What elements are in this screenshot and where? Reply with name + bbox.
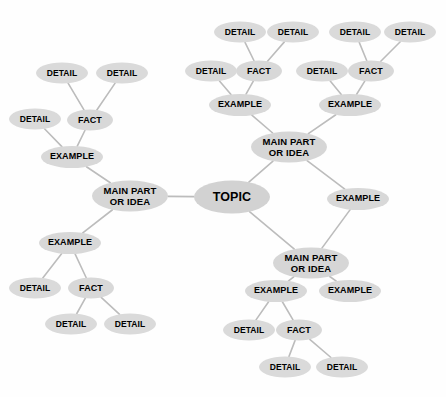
edge-ex-b1-to-fact-b1 bbox=[282, 302, 293, 320]
edge-fact-l2-to-det-l2c bbox=[101, 297, 119, 314]
node-ex-b2[interactable]: EXAMPLE bbox=[319, 280, 381, 302]
node-ex-l1[interactable]: EXAMPLE bbox=[41, 146, 103, 168]
edge-fact-l1-to-det-l1b bbox=[68, 83, 84, 110]
edge-main-upper-to-ex-u1 bbox=[252, 115, 273, 133]
node-main-lower[interactable]: MAIN PART OR IDEA bbox=[273, 248, 349, 279]
node-det-u1a[interactable]: DETAIL bbox=[185, 61, 237, 82]
node-fact-l2[interactable]: FACT bbox=[68, 278, 114, 299]
node-det-u2a[interactable]: DETAIL bbox=[296, 61, 348, 82]
edge-ex-u1-to-det-u1a bbox=[219, 81, 231, 95]
node-det-b1c[interactable]: DETAIL bbox=[316, 357, 368, 378]
edge-main-upper-to-ex-mid bbox=[307, 161, 345, 189]
edge-ex-l1-to-det-l1a bbox=[45, 129, 62, 147]
node-det-l1a[interactable]: DETAIL bbox=[9, 109, 61, 130]
node-ex-u1[interactable]: EXAMPLE bbox=[209, 94, 271, 116]
node-fact-l1[interactable]: FACT bbox=[67, 110, 113, 131]
edge-ex-u2-to-det-u2a bbox=[330, 81, 341, 94]
node-main-left[interactable]: MAIN PART OR IDEA bbox=[92, 181, 168, 212]
node-fact-u1[interactable]: FACT bbox=[236, 61, 282, 82]
edge-fact-u1-to-det-u1b bbox=[245, 42, 254, 60]
node-det-l1b[interactable]: DETAIL bbox=[36, 63, 88, 84]
edge-topic-to-main-lower bbox=[250, 212, 295, 249]
node-det-u2c[interactable]: DETAIL bbox=[384, 22, 436, 43]
edge-main-left-to-ex-l1 bbox=[86, 167, 110, 183]
edge-fact-u2-to-det-u2b bbox=[359, 42, 367, 60]
edge-fact-l2-to-det-l2b bbox=[77, 298, 86, 314]
node-ex-b1[interactable]: EXAMPLE bbox=[245, 280, 307, 302]
node-det-l2a[interactable]: DETAIL bbox=[9, 278, 61, 299]
edge-main-lower-to-ex-mid bbox=[322, 210, 350, 249]
node-det-u1b[interactable]: DETAIL bbox=[214, 22, 266, 43]
edge-ex-l2-to-fact-l2 bbox=[75, 254, 86, 278]
edge-main-upper-to-ex-u2 bbox=[308, 115, 335, 134]
node-det-l2b[interactable]: DETAIL bbox=[45, 314, 97, 335]
node-topic[interactable]: TOPIC bbox=[194, 181, 270, 214]
node-fact-u2[interactable]: FACT bbox=[348, 61, 394, 82]
node-det-u2b[interactable]: DETAIL bbox=[329, 22, 381, 43]
edge-main-left-to-ex-l2 bbox=[83, 210, 113, 233]
edge-ex-u2-to-fact-u2 bbox=[357, 81, 365, 94]
edge-ex-b1-to-det-b1a bbox=[256, 302, 269, 320]
edge-fact-l1-to-det-l1c bbox=[97, 83, 115, 110]
node-det-b1b[interactable]: DETAIL bbox=[259, 357, 311, 378]
node-ex-mid[interactable]: EXAMPLE bbox=[327, 188, 389, 210]
edge-fact-u2-to-det-u2c bbox=[381, 42, 401, 62]
edge-ex-l2-to-det-l2a bbox=[43, 254, 62, 278]
node-det-u1c[interactable]: DETAIL bbox=[267, 22, 319, 43]
edge-ex-u1-to-fact-u1 bbox=[246, 81, 253, 94]
node-main-upper[interactable]: MAIN PART OR IDEA bbox=[251, 132, 327, 163]
node-ex-l2[interactable]: EXAMPLE bbox=[39, 232, 101, 254]
node-det-l2c[interactable]: DETAIL bbox=[104, 314, 156, 335]
edge-fact-u1-to-det-u1c bbox=[268, 42, 285, 61]
node-det-l1c[interactable]: DETAIL bbox=[96, 63, 148, 84]
edge-ex-l1-to-fact-l1 bbox=[77, 130, 85, 146]
node-det-b1a[interactable]: DETAIL bbox=[223, 320, 275, 341]
node-ex-u2[interactable]: EXAMPLE bbox=[319, 94, 381, 116]
edge-topic-to-main-upper bbox=[249, 161, 273, 182]
node-fact-b1[interactable]: FACT bbox=[276, 320, 322, 341]
edge-fact-b1-to-det-b1b bbox=[289, 340, 295, 356]
mind-map-canvas: TOPICMAIN PART OR IDEAMAIN PART OR IDEAM… bbox=[0, 0, 446, 397]
edge-fact-b1-to-det-b1c bbox=[310, 339, 331, 357]
